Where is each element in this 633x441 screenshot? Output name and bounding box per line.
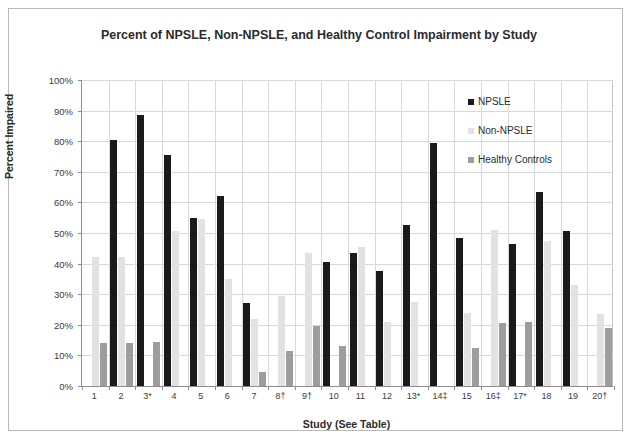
bar xyxy=(464,313,471,386)
bar xyxy=(259,372,266,386)
y-tick-mark xyxy=(78,172,82,173)
y-tick-mark xyxy=(78,80,82,81)
x-tick-label: 5 xyxy=(198,391,203,401)
legend-swatch-npsle xyxy=(468,99,474,105)
bar xyxy=(605,328,612,386)
legend-label: Non-NPSLE xyxy=(478,125,532,136)
bar xyxy=(286,351,293,386)
bar xyxy=(100,343,107,386)
y-tick-mark xyxy=(78,264,82,265)
x-tick-label: 19 xyxy=(568,391,578,401)
bar xyxy=(225,279,232,386)
bar xyxy=(376,271,383,386)
x-tick-mark xyxy=(242,386,243,390)
x-axis-title: Study (See Table) xyxy=(81,418,612,430)
bar xyxy=(243,303,250,386)
y-axis-tick-labels: 0%10%20%30%40%50%60%70%80%90%100% xyxy=(9,9,79,441)
x-tick-label: 3* xyxy=(143,391,152,401)
y-tick-mark xyxy=(78,325,82,326)
x-gridline xyxy=(295,80,296,386)
bar xyxy=(499,323,506,386)
bar xyxy=(92,257,99,386)
bar xyxy=(403,225,410,386)
y-tick-mark xyxy=(78,233,82,234)
x-tick-mark xyxy=(534,386,535,390)
bar xyxy=(430,143,437,386)
y-tick-label: 70% xyxy=(54,166,73,177)
x-tick-mark xyxy=(268,386,269,390)
x-tick-mark xyxy=(82,386,83,390)
y-tick-label: 10% xyxy=(54,350,73,361)
bar xyxy=(251,319,258,386)
x-tick-mark xyxy=(587,386,588,390)
x-tick-mark xyxy=(508,386,509,390)
bar xyxy=(118,257,125,386)
bar xyxy=(597,314,604,386)
y-tick-label: 20% xyxy=(54,319,73,330)
y-axis-title: Percent Impaired xyxy=(3,94,15,179)
x-tick-mark xyxy=(454,386,455,390)
bar xyxy=(350,253,357,386)
chart-legend: NPSLENon-NPSLEHealthy Controls xyxy=(468,87,608,174)
bar xyxy=(164,155,171,386)
bar xyxy=(198,219,205,386)
bar xyxy=(110,140,117,386)
x-tick-mark xyxy=(561,386,562,390)
bar xyxy=(305,253,312,386)
y-tick-label: 30% xyxy=(54,289,73,300)
x-tick-label: 12 xyxy=(382,391,392,401)
y-tick-mark xyxy=(78,141,82,142)
x-tick-mark xyxy=(215,386,216,390)
bar xyxy=(509,244,516,386)
x-tick-label: 9† xyxy=(302,391,312,401)
bar xyxy=(384,322,391,386)
y-tick-label: 80% xyxy=(54,136,73,147)
bar xyxy=(278,296,285,386)
x-tick-label: 15 xyxy=(462,391,472,401)
y-tick-label: 50% xyxy=(54,228,73,239)
x-tick-mark xyxy=(295,386,296,390)
y-tick-label: 100% xyxy=(49,75,73,86)
x-tick-mark xyxy=(162,386,163,390)
x-tick-label: 7 xyxy=(251,391,256,401)
x-tick-mark xyxy=(428,386,429,390)
chart-frame: Percent of NPSLE, Non-NPSLE, and Healthy… xyxy=(8,8,623,431)
bar xyxy=(411,302,418,386)
x-tick-label: 17* xyxy=(513,391,527,401)
legend-swatch-healthy-controls xyxy=(468,157,474,163)
x-tick-label: 14‡ xyxy=(433,391,448,401)
legend-label: NPSLE xyxy=(478,96,511,107)
legend-item: Healthy Controls xyxy=(468,145,608,174)
x-tick-mark xyxy=(321,386,322,390)
x-tick-mark xyxy=(375,386,376,390)
x-tick-mark xyxy=(481,386,482,390)
y-tick-label: 60% xyxy=(54,197,73,208)
y-tick-mark xyxy=(78,202,82,203)
x-tick-label: 8† xyxy=(275,391,285,401)
bar xyxy=(525,322,532,386)
x-tick-mark xyxy=(188,386,189,390)
y-tick-mark xyxy=(78,111,82,112)
x-tick-label: 13* xyxy=(407,391,421,401)
bar xyxy=(190,218,197,386)
bar xyxy=(358,247,365,386)
x-tick-mark xyxy=(401,386,402,390)
x-gridline xyxy=(268,80,269,386)
x-tick-mark xyxy=(614,386,615,390)
legend-item: Non-NPSLE xyxy=(468,116,608,145)
x-tick-label: 1 xyxy=(92,391,97,401)
y-tick-mark xyxy=(78,355,82,356)
x-tick-label: 4 xyxy=(172,391,177,401)
bar xyxy=(126,343,133,386)
x-tick-label: 20† xyxy=(592,391,607,401)
bar xyxy=(137,115,144,386)
x-tick-label: 10 xyxy=(329,391,339,401)
y-tick-label: 0% xyxy=(59,381,73,392)
x-tick-label: 6 xyxy=(225,391,230,401)
bar xyxy=(217,196,224,386)
legend-label: Healthy Controls xyxy=(478,154,552,165)
bar xyxy=(544,241,551,386)
bar xyxy=(536,192,543,386)
x-tick-label: 16‡ xyxy=(486,391,501,401)
bar xyxy=(323,262,330,386)
